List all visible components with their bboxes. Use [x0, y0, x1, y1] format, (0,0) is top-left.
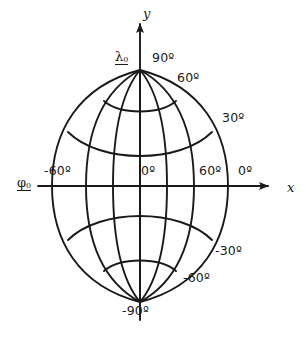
label-longitude-60: 60º	[199, 163, 221, 178]
phi-subscript: 0	[26, 181, 31, 190]
lambda-symbol: λ	[115, 49, 123, 64]
label-latitude-60: 60º	[177, 70, 199, 85]
y-axis-label: y	[143, 6, 150, 21]
label-longitude-0-center: 0º	[141, 163, 155, 178]
label-latitude-90: 90º	[152, 50, 174, 65]
label-longitude-0-right: 0º	[238, 163, 252, 178]
label-longitude-minus-60: -60º	[44, 163, 71, 178]
projection-figure: x y λ0 φ0 90º 60º 30º -60º 0º 60º 0º -30…	[0, 0, 306, 340]
lambda-subscript: 0	[123, 55, 128, 64]
label-latitude-minus-90: -90º	[122, 303, 149, 318]
phi-symbol: φ	[17, 175, 26, 190]
phi-zero-label: φ0	[17, 176, 31, 191]
label-latitude-minus-30: -30º	[215, 243, 242, 258]
lambda-zero-label: λ0	[115, 50, 128, 65]
label-latitude-30: 30º	[222, 110, 244, 125]
label-latitude-minus-60: -60º	[183, 270, 210, 285]
x-axis-label: x	[287, 180, 294, 195]
